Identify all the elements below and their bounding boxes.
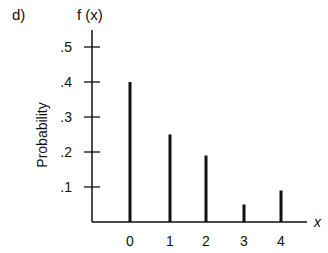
- y-tick-label: .4: [60, 74, 72, 90]
- x-tick-label: 4: [277, 233, 285, 249]
- x-tick-label: 1: [166, 233, 174, 249]
- x-tick-label: 2: [202, 233, 210, 249]
- y-tick-label: .2: [60, 144, 72, 160]
- y-tick-label: .3: [60, 109, 72, 125]
- y-tick-label: .1: [60, 179, 72, 195]
- y-tick-label: .5: [60, 39, 72, 55]
- x-tick-label: 0: [126, 233, 134, 249]
- chart-plot-area: .1.2.3.4.501234x: [0, 0, 328, 253]
- x-axis-label: x: [313, 214, 322, 230]
- x-tick-label: 3: [240, 233, 248, 249]
